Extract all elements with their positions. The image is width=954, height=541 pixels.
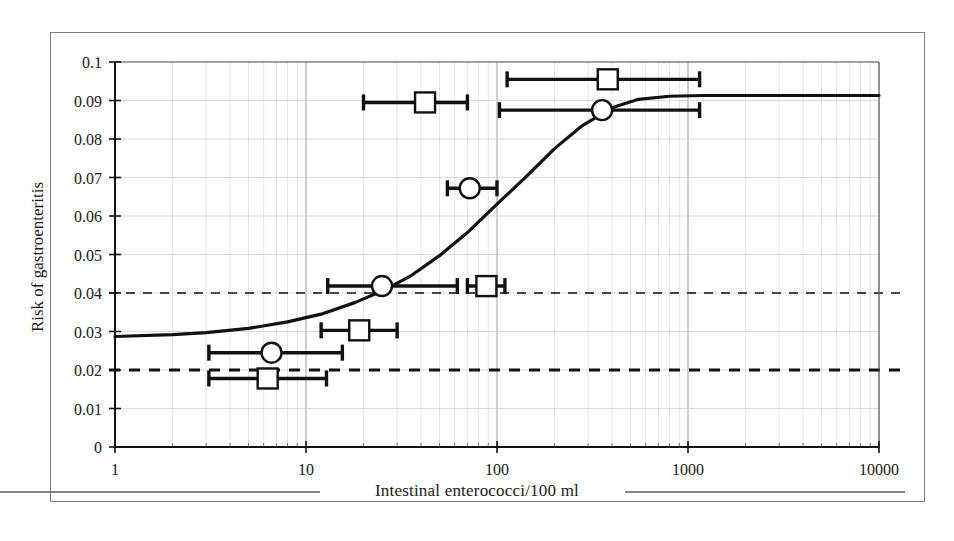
y-tick-label: 0.06 [74, 208, 102, 225]
data-point-circle [372, 276, 392, 296]
data-point-square [476, 276, 496, 296]
x-tick-label: 10000 [859, 461, 899, 478]
x-tick-label: 100 [485, 461, 509, 478]
axis-tick-labels: 00.010.020.030.040.050.060.070.080.090.1… [74, 54, 899, 478]
x-tick-label: 10 [298, 461, 314, 478]
axis-ticks [109, 62, 879, 453]
figure-page: 00.010.020.030.040.050.060.070.080.090.1… [0, 0, 954, 541]
data-point-circle [592, 100, 612, 120]
x-tick-label: 1000 [672, 461, 704, 478]
y-tick-label: 0.05 [74, 247, 102, 264]
data-point-square [258, 368, 278, 388]
y-tick-label: 0.07 [74, 170, 102, 187]
data-point-square [349, 320, 369, 340]
error-bars [209, 71, 700, 386]
x-tick-label: 1 [111, 461, 119, 478]
data-point-circle [262, 343, 282, 363]
data-point-square [598, 69, 618, 89]
data-point-square [415, 92, 435, 112]
gridlines [115, 62, 879, 447]
y-tick-label: 0.02 [74, 362, 102, 379]
dose-response-chart: 00.010.020.030.040.050.060.070.080.090.1… [0, 0, 954, 541]
y-tick-label: 0.01 [74, 401, 102, 418]
y-tick-label: 0.09 [74, 93, 102, 110]
y-axis-title: Risk of gastroenteritis [28, 127, 48, 387]
x-axis-title: Intestinal enterococci/100 ml [0, 481, 954, 501]
y-tick-label: 0.08 [74, 131, 102, 148]
data-markers [258, 69, 618, 388]
data-point-circle [460, 178, 480, 198]
y-tick-label: 0.1 [82, 54, 102, 71]
y-tick-label: 0 [94, 439, 102, 456]
y-tick-label: 0.03 [74, 324, 102, 341]
y-tick-label: 0.04 [74, 285, 102, 302]
